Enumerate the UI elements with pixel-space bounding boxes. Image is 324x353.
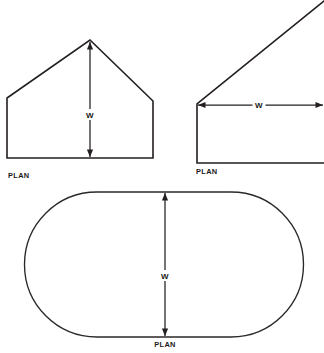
stadium-plan-caption: PLAN bbox=[154, 340, 176, 349]
plan-shapes-diagram: W PLAN W PLAN W bbox=[0, 0, 324, 353]
gable-plan-caption: PLAN bbox=[8, 171, 30, 180]
stadium-dimension-label: W bbox=[161, 272, 169, 281]
wedge-dimension-label: W bbox=[255, 101, 263, 110]
wedge-plan-caption: PLAN bbox=[196, 167, 218, 176]
diagram-root: W PLAN W PLAN W bbox=[0, 0, 324, 353]
canvas-background bbox=[0, 0, 324, 353]
gable-dimension-label: W bbox=[86, 111, 94, 120]
